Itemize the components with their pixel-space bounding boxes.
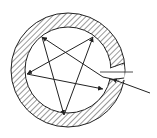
hatched-ring [11,13,125,127]
ray-segment [64,37,93,115]
ray-segment [27,74,103,89]
ray-segment [27,37,93,74]
ring-ray-diagram [0,0,157,138]
